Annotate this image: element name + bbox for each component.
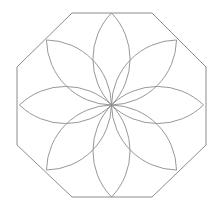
petal [93,105,130,197]
petal [112,86,204,123]
petal [46,40,111,105]
petal [112,105,177,170]
rosette-diagram [0,0,218,210]
petal [20,86,112,123]
petal [93,13,130,105]
petal [46,105,111,170]
octagon-rosette-figure [0,0,218,210]
petal [112,40,177,105]
petal-group [20,13,204,197]
